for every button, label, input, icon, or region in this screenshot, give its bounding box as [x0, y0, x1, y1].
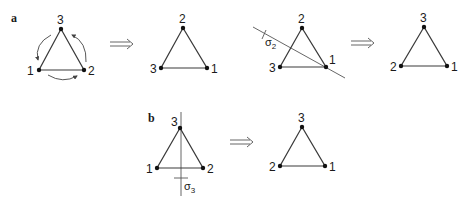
vertex-label-right: 1 — [329, 160, 336, 174]
vertex-dot — [422, 25, 426, 29]
vertex-label-right: 1 — [329, 53, 336, 67]
vertex-dot — [324, 65, 328, 69]
panel-label-b: b — [148, 111, 155, 125]
vertex-dot — [159, 66, 163, 70]
vertex-dot — [205, 66, 209, 70]
vertex-label-top: 3 — [420, 11, 427, 25]
rotation-arrow-icon — [37, 35, 51, 60]
vertex-label-left: 3 — [269, 61, 276, 75]
vertex-dot — [37, 68, 41, 72]
vertex-dot — [300, 125, 304, 129]
vertex-dot — [445, 64, 449, 68]
vertex-dot — [323, 164, 327, 168]
panel-label-a: a — [11, 11, 17, 25]
triangle-b2: 3 2 1 — [269, 111, 336, 174]
vertex-dot — [399, 64, 403, 68]
vertex-dot — [201, 166, 205, 170]
vertex-dot — [155, 166, 159, 170]
triangle-a1: 3 1 2 — [27, 13, 95, 80]
vertex-label-left: 1 — [27, 64, 34, 78]
vertex-label-left: 3 — [150, 62, 157, 76]
vertex-dot — [278, 164, 282, 168]
mirror-label: σ2 — [265, 36, 277, 51]
vertex-dot — [82, 68, 86, 72]
mirror-label: σ3 — [184, 180, 196, 195]
symmetry-operations-figure: a 3 1 2 2 3 1 2 3 1 — [0, 0, 465, 203]
vertex-label-left: 2 — [269, 160, 276, 174]
implies-arrow-icon — [110, 39, 133, 49]
vertex-label-right: 1 — [451, 60, 458, 74]
vertex-label-top: 2 — [298, 12, 305, 26]
triangle-b1: 3 1 2 σ3 — [146, 112, 214, 196]
triangle-a2: 2 3 1 — [150, 12, 218, 76]
vertex-dot — [300, 26, 304, 30]
implies-arrow-icon — [230, 137, 253, 147]
vertex-label-left: 1 — [146, 162, 153, 176]
vertex-label-top: 3 — [171, 115, 178, 129]
triangle-a3: 2 3 1 σ2 — [253, 12, 345, 78]
vertex-label-left: 2 — [390, 60, 397, 74]
implies-arrow-icon — [351, 38, 374, 48]
vertex-dot — [178, 126, 182, 130]
vertex-label-top: 3 — [298, 111, 305, 125]
rotation-arrow-icon — [48, 75, 77, 80]
vertex-dot — [278, 65, 282, 69]
vertex-label-top: 2 — [179, 12, 186, 26]
triangle-a4: 3 2 1 — [390, 11, 458, 74]
vertex-dot — [59, 27, 63, 31]
vertex-label-right: 2 — [207, 162, 214, 176]
rotation-arrow-icon — [72, 35, 86, 62]
vertex-label-right: 2 — [88, 64, 95, 78]
vertex-label-right: 1 — [211, 62, 218, 76]
vertex-dot — [181, 26, 185, 30]
vertex-label-top: 3 — [57, 13, 64, 27]
